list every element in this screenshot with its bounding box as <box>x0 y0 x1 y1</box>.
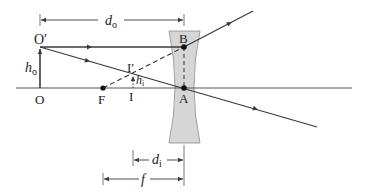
diverging-ray <box>184 11 253 47</box>
ray-direction-icon <box>252 106 258 112</box>
label-B: B <box>179 31 188 46</box>
label-di: di <box>152 152 162 169</box>
label-F: F <box>98 92 105 107</box>
lens-ray-diagram: O′ O F I I′ A B do ho hi di f <box>0 0 365 193</box>
label-I: I <box>129 89 133 104</box>
label-hi: hi <box>136 73 145 88</box>
label-I-prime: I′ <box>127 60 134 75</box>
label-A: A <box>179 91 189 106</box>
label-O-prime: O′ <box>34 32 47 47</box>
point-F <box>100 85 105 90</box>
label-do: do <box>105 13 117 30</box>
ray-direction-icon <box>87 45 92 50</box>
label-f: f <box>141 172 147 187</box>
label-ho: ho <box>25 60 37 77</box>
ray-direction-icon <box>226 20 233 27</box>
label-O: O <box>35 92 44 107</box>
point-A <box>181 85 187 91</box>
